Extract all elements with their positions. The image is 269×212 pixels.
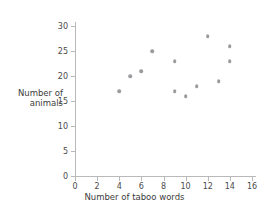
y-tick-mark [71, 51, 75, 52]
x-tick-mark [230, 177, 231, 181]
data-point [173, 89, 177, 93]
data-point [195, 84, 199, 88]
data-point [184, 94, 188, 98]
x-tick-label: 10 [181, 182, 191, 191]
x-tick-label: 6 [139, 182, 144, 191]
y-axis-title-line-1: Number of [6, 88, 63, 98]
x-tick-mark [75, 177, 76, 181]
x-axis-title: Number of taboo words [0, 192, 269, 202]
x-tick-mark [164, 177, 165, 181]
y-tick-label: 25 [58, 47, 68, 56]
x-tick-label: 16 [247, 182, 257, 191]
y-tick-label: 15 [58, 97, 68, 106]
y-tick-label: 0 [63, 172, 68, 181]
x-tick-mark [97, 177, 98, 181]
y-tick-mark [71, 151, 75, 152]
x-tick-label: 2 [95, 182, 100, 191]
data-point [129, 74, 133, 78]
y-tick-mark [71, 101, 75, 102]
x-tick-mark [252, 177, 253, 181]
x-tick-label: 14 [225, 182, 235, 191]
x-tick-mark [141, 177, 142, 181]
data-point [228, 44, 232, 48]
y-tick-mark [71, 26, 75, 27]
y-axis-line [75, 22, 76, 176]
y-axis-title: Number of animals [6, 88, 63, 108]
x-tick-label: 0 [72, 182, 77, 191]
y-tick-mark [71, 76, 75, 77]
data-point [140, 69, 144, 73]
y-tick-label: 30 [58, 22, 68, 31]
x-tick-label: 12 [203, 182, 213, 191]
y-tick-label: 20 [58, 72, 68, 81]
data-point [117, 89, 121, 93]
x-tick-mark [208, 177, 209, 181]
x-axis-line [75, 176, 256, 177]
y-tick-label: 5 [63, 147, 68, 156]
scatter-plot-figure: Number of animals 051015202530 024681012… [0, 0, 269, 212]
data-point [228, 59, 232, 63]
x-tick-label: 4 [117, 182, 122, 191]
plot-area: 051015202530 0246810121416 [75, 26, 252, 176]
x-tick-mark [119, 177, 120, 181]
data-point [217, 79, 221, 83]
data-point [206, 34, 210, 38]
y-tick-label: 10 [58, 122, 68, 131]
y-tick-mark [71, 126, 75, 127]
x-tick-label: 8 [161, 182, 166, 191]
data-point [173, 59, 177, 63]
data-point [151, 49, 155, 53]
x-tick-mark [186, 177, 187, 181]
y-axis-title-line-2: animals [6, 98, 63, 108]
